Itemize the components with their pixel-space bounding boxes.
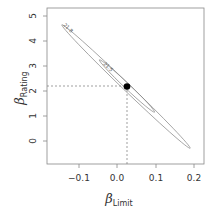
contour-label-outer: 21.8 [62, 22, 74, 34]
x-axis-title: βLimit [104, 191, 132, 208]
x-tick-label: 0.2 [187, 173, 201, 183]
x-axis: −0.1 0.0 0.1 0.2 [68, 164, 201, 183]
y-tick-label: 1 [28, 113, 38, 119]
y-axis: 5 4 3 2 1 0 [28, 13, 47, 144]
y-tick-label: 0 [28, 138, 38, 144]
contour-chart: 5 4 3 2 1 0 −0.1 0.0 0.1 0.2 βLimit βRat… [0, 0, 213, 212]
y-tick-label: 4 [28, 38, 38, 44]
x-tick-label: 0.0 [110, 173, 125, 183]
y-tick-label: 2 [28, 88, 38, 94]
y-axis-title: βRating [12, 71, 29, 105]
x-tick-label: −0.1 [68, 173, 90, 183]
x-tick-label: 0.1 [149, 173, 163, 183]
y-tick-label: 3 [28, 63, 38, 69]
y-tick-label: 5 [28, 13, 38, 19]
minimum-point-marker [124, 83, 131, 90]
